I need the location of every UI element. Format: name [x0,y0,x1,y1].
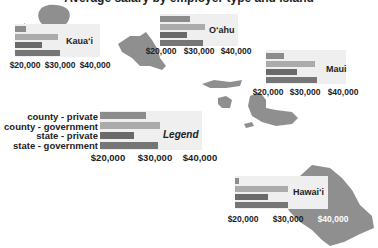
hawaii-tick: $30,000 [273,214,304,224]
hawaii-tick: $20,000 [228,214,259,224]
legend-bar-county-private [100,112,146,119]
maui-bar-county-government [266,61,315,67]
hawaii-bar-state-private [235,194,268,200]
kauai-tick: $40,000 [80,60,111,70]
legend-category-labels: county - private county - government sta… [4,112,98,150]
hawaii-x-axis: $20,000 $30,000 $40,000 [0,214,378,226]
legend-tick: $20,000 [91,152,125,163]
maui-label: Maui [326,64,347,74]
oahu-tick: $30,000 [184,46,215,56]
maui-bar-county-private [266,53,284,59]
legend-title: Legend [163,129,199,140]
oahu-tick: $20,000 [146,46,177,56]
kahoolawe-island-shape [244,122,254,128]
hawaii-bar-state-government [235,202,288,208]
legend-bar-state-private [100,132,134,139]
maui-tick: $20,000 [253,87,284,97]
legend-label-state-government: state - government [4,141,98,151]
hawaii-bar-county-government [235,186,288,192]
maui-bar-state-private [266,69,297,75]
kauai-bar-county-private [15,26,26,32]
legend-tick: $30,000 [138,152,172,163]
legend-tick: $40,000 [183,152,217,163]
kauai-tick: $30,000 [45,60,76,70]
maui-x-axis: $20,000 $30,000 $40,000 [0,87,378,99]
hawaii-tick: $40,000 [318,214,349,224]
legend-x-axis: $20,000 $30,000 $40,000 [0,152,378,164]
kauai-bar-county-government [15,34,58,40]
maui-tick: $40,000 [328,87,359,97]
maui-bar-state-government [266,77,317,83]
oahu-bar-state-private [160,32,187,38]
hawaii-label: Hawai‘i [293,187,324,197]
hawaii-bar-county-private [235,178,239,184]
oahu-bar-county-government [160,24,205,30]
kauai-label: Kaua‘i [66,36,93,46]
kauai-tick: $20,000 [10,60,41,70]
oahu-tick: $40,000 [221,46,252,56]
oahu-bar-county-private [160,16,190,22]
oahu-label: O‘ahu [209,25,235,35]
legend-bar-state-government [100,142,158,149]
legend-bar-county-government [100,122,160,129]
maui-tick: $30,000 [290,87,321,97]
